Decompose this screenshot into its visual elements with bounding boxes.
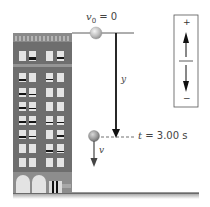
displacement-arrow [112,33,120,138]
ground [13,193,199,199]
ball-initial [90,27,102,39]
free-fall-diagram: v0 = 0 y t = 3.00 s v + − [0,0,210,207]
building [13,33,72,193]
initial-velocity-label: v0 = 0 [86,12,117,22]
ball-final [89,131,100,142]
displacement-label: y [121,75,126,84]
velocity-label: v [99,146,104,155]
diagram-graphic [0,0,210,207]
initial-velocity-symbol: v [86,11,92,22]
initial-velocity-value: = 0 [96,11,117,22]
time-value: = 3.00 s [142,130,187,141]
time-label: t = 3.00 s [138,131,187,141]
initial-velocity-subscript: 0 [92,17,96,25]
velocity-arrow [91,141,98,167]
negative-sign-label: − [183,94,191,103]
positive-sign-label: + [183,18,191,27]
